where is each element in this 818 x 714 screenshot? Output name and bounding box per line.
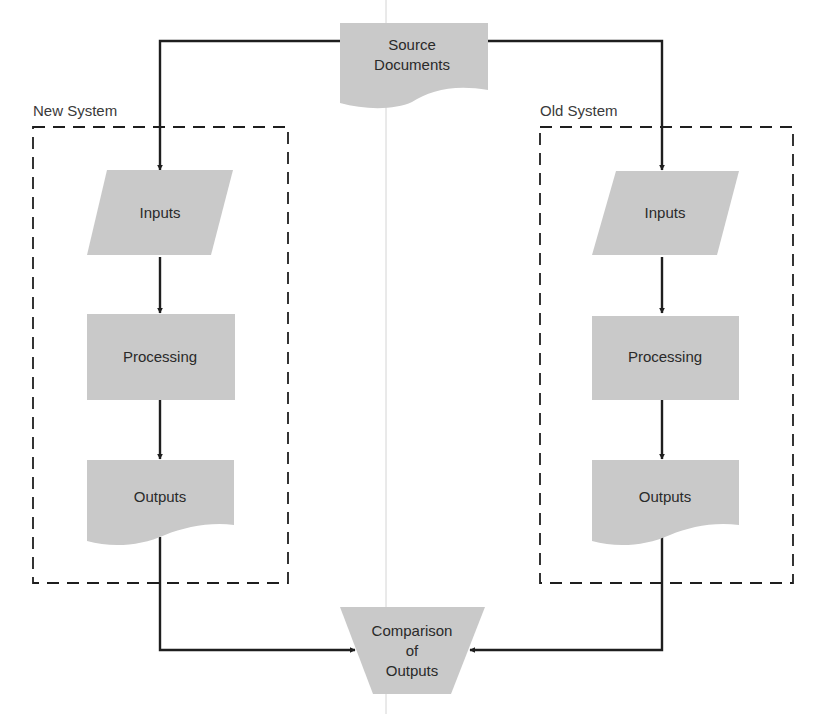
new-system-inputs-node: Inputs [87, 170, 233, 255]
new-processing-label: Processing [123, 348, 197, 365]
comparison-line-1: Comparison [372, 622, 453, 639]
old-system-inputs-node: Inputs [592, 171, 739, 255]
old-system-outputs-node: Outputs [592, 460, 739, 545]
new-system-label: New System [33, 102, 117, 119]
new-system-processing-node: Processing [87, 314, 235, 400]
comparison-of-outputs-node: Comparison of Outputs [340, 607, 485, 694]
new-outputs-label: Outputs [134, 488, 187, 505]
source-documents-node: Source Documents [340, 23, 488, 108]
comparison-line-3: Outputs [386, 662, 439, 679]
source-documents-line-1: Source [388, 36, 436, 53]
old-system-processing-node: Processing [592, 316, 739, 400]
new-inputs-label: Inputs [140, 204, 181, 221]
edge-old-outputs-to-comparison [470, 537, 662, 650]
edge-new-outputs-to-comparison [160, 537, 355, 650]
old-inputs-label: Inputs [645, 204, 686, 221]
old-processing-label: Processing [628, 348, 702, 365]
source-documents-line-2: Documents [374, 56, 450, 73]
edge-source-to-new-inputs [160, 41, 340, 170]
flowchart-canvas: New System Old System Source Documents I… [0, 0, 818, 714]
new-system-outputs-node: Outputs [87, 460, 234, 545]
old-system-label: Old System [540, 102, 618, 119]
old-outputs-label: Outputs [639, 488, 692, 505]
comparison-line-2: of [406, 642, 419, 659]
